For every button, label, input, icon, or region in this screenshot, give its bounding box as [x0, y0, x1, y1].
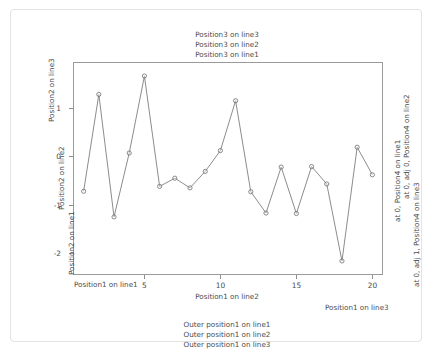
data-point	[249, 190, 253, 194]
data-series-plot	[73, 62, 383, 275]
data-point	[218, 148, 222, 152]
right-label-line3: at 0, adj 1, Position4 on line3	[413, 182, 420, 287]
series-line	[84, 76, 373, 261]
data-point	[340, 259, 344, 263]
outer-label-line3: Outer position1 on line3	[184, 340, 271, 350]
figure-frame: Position3 on line3 Position3 on line2 Po…	[10, 9, 422, 342]
y-tick-label: -2	[54, 249, 61, 258]
x-tick-label: 20	[368, 281, 377, 290]
data-point	[370, 173, 374, 177]
y-tick-mark	[69, 156, 73, 157]
bottom-outer-block: Outer position1 on line1 Outer position1…	[184, 320, 271, 351]
top-title-block: Position3 on line3 Position3 on line2 Po…	[195, 30, 259, 61]
data-point	[325, 182, 329, 186]
bottom-label-line2: Position1 on line2	[195, 293, 259, 300]
data-point	[112, 215, 116, 219]
bottom-label-line3: Position1 on line3	[325, 304, 389, 311]
x-tick-label: 5	[142, 281, 147, 290]
data-point	[294, 211, 298, 215]
right-label-line2: at 0, adj 0, Position4 on line2	[403, 94, 410, 199]
x-tick-mark	[296, 275, 297, 279]
left-label-line1: Position2 on line1	[68, 211, 75, 275]
data-point	[142, 74, 146, 78]
data-point	[173, 176, 177, 180]
x-tick-mark	[372, 275, 373, 279]
bottom-label-line1: Position1 on line1	[74, 281, 138, 288]
data-point	[188, 186, 192, 190]
data-point	[234, 99, 238, 103]
data-point	[82, 189, 86, 193]
data-point	[264, 211, 268, 215]
x-tick-mark	[144, 275, 145, 279]
data-point	[309, 164, 313, 168]
left-label-line3: Position2 on line3	[48, 58, 55, 122]
right-label-line1: at 0, Position4 on line1	[394, 140, 401, 222]
data-point	[97, 92, 101, 96]
x-tick-label: 10	[216, 281, 225, 290]
x-tick-mark	[220, 275, 221, 279]
data-point	[158, 184, 162, 188]
data-point	[203, 169, 207, 173]
left-label-line2: Position2 on line2	[58, 146, 65, 210]
y-tick-mark	[69, 205, 73, 206]
data-point	[279, 165, 283, 169]
outer-label-line2: Outer position1 on line2	[184, 330, 271, 340]
y-tick-mark	[69, 108, 73, 109]
top-title-line2: Position3 on line2	[195, 40, 259, 50]
data-point	[355, 145, 359, 149]
data-point	[127, 151, 131, 155]
screenshot-canvas: Position3 on line3 Position3 on line2 Po…	[0, 0, 433, 359]
x-tick-label: 15	[292, 281, 301, 290]
top-title-line3: Position3 on line3	[195, 30, 259, 40]
top-title-line1: Position3 on line1	[195, 50, 259, 60]
y-tick-label: 1	[56, 104, 61, 113]
outer-label-line1: Outer position1 on line1	[184, 320, 271, 330]
